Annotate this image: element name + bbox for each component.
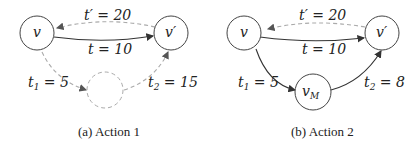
edge-t1-label: t1 = 5 — [238, 74, 279, 92]
edge-t-label: t = 10 — [302, 41, 346, 57]
edge-t2-label: t2 = 15 — [148, 74, 198, 92]
edge-t-prime-label: t′ = 20 — [84, 7, 131, 23]
edge-t-label: t = 10 — [88, 41, 132, 57]
edge-t2-label: t2 = 8 — [364, 74, 405, 92]
node-v-label: v — [240, 24, 248, 40]
edge-t1-label: t1 = 5 — [28, 74, 69, 92]
node-intermediate-dashed — [87, 72, 123, 108]
caption-action-1: (a) Action 1 — [78, 124, 140, 139]
node-v-label: v — [33, 24, 41, 40]
node-v-prime-label: v′ — [376, 24, 388, 40]
diagram-canvas: v v′ t′ = 20 t = 10 t1 = 5 t2 = 15 (a) A… — [0, 0, 420, 150]
panel-action-1: v v′ t′ = 20 t = 10 t1 = 5 t2 = 15 (a) A… — [20, 7, 198, 139]
panel-action-2: v v′ vM t′ = 20 t = 10 t1 = 5 t2 = 8 (b)… — [227, 7, 405, 139]
edge-t — [54, 36, 153, 40]
caption-action-2: (b) Action 2 — [291, 124, 354, 139]
edge-t-prime-label: t′ = 20 — [299, 7, 346, 23]
node-v-prime-label: v′ — [165, 24, 177, 40]
edge-t-prime — [268, 23, 365, 29]
